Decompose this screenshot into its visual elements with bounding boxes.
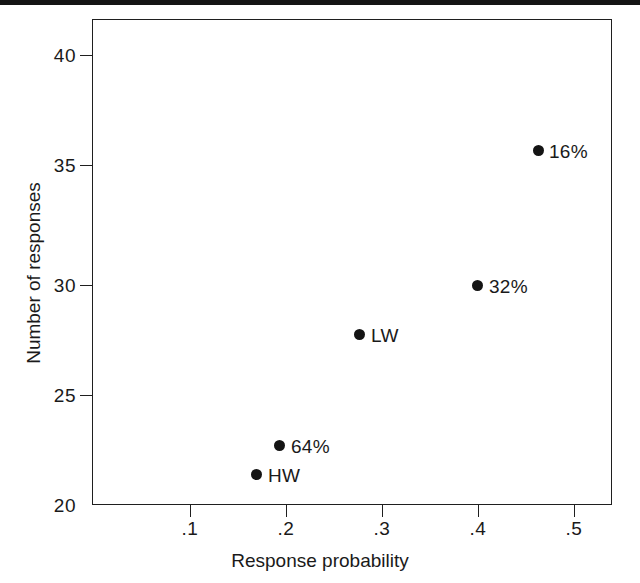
plot-frame: 16% 32% LW 64% HW [92,19,612,505]
data-point-label-hw: HW [268,466,300,485]
data-point-label-16: 16% [549,142,588,161]
y-tick-label-35: 35 [34,156,76,175]
x-tick-mark-0.5 [574,505,575,517]
y-axis-title: Number of responses [23,143,45,403]
x-tick-label-0.3: .3 [359,519,405,538]
x-tick-label-0.5: .5 [551,519,597,538]
y-tick-mark-35 [80,165,92,166]
y-tick-mark-40 [80,55,92,56]
x-tick-mark-0.1 [190,505,191,517]
x-axis-title: Response probability [0,550,640,572]
data-point-label-lw: LW [371,326,399,345]
x-tick-label-0.4: .4 [455,519,501,538]
y-tick-label-20: 20 [34,496,76,515]
data-point-hw[interactable] [251,469,262,480]
y-tick-mark-30 [80,285,92,286]
data-point-label-32: 32% [489,277,528,296]
y-tick-label-25: 25 [34,386,76,405]
x-tick-mark-0.3 [382,505,383,517]
y-tick-label-40: 40 [34,46,76,65]
y-tick-label-30: 30 [34,276,76,295]
y-tick-mark-25 [80,395,92,396]
data-point-16[interactable] [533,145,544,156]
x-tick-label-0.2: .2 [263,519,309,538]
data-point-label-64: 64% [291,437,330,456]
scatter-plot-figure: Number of responses 40 35 30 25 20 16% 3… [0,0,640,583]
data-point-32[interactable] [472,280,483,291]
x-tick-label-0.1: .1 [167,519,213,538]
x-tick-mark-0.2 [286,505,287,517]
x-tick-mark-0.4 [478,505,479,517]
data-point-64[interactable] [274,440,285,451]
data-point-lw[interactable] [354,329,365,340]
